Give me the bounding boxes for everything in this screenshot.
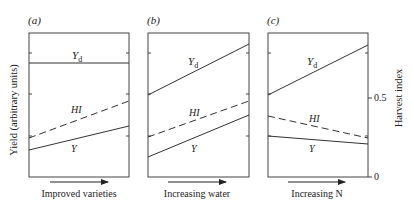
panel-a: (a) Yd HI Y Improved varieties: [28, 14, 129, 199]
y2-axis-label: Harvest index: [393, 68, 404, 127]
y-axis-label: Yield (arbitrary units): [8, 64, 20, 156]
panel-c-label: (c): [267, 14, 280, 27]
panel-b-label: (b): [147, 14, 160, 27]
hi-label-a: HI: [70, 104, 82, 115]
y-line-c: [268, 136, 368, 144]
yd-line-c: [268, 45, 368, 95]
hi-label-b: HI: [188, 107, 200, 118]
ticks-b: [148, 53, 249, 136]
ticks-a: [29, 53, 129, 136]
figure: Yield (arbitrary units) (a) Yd HI Y Impr…: [0, 0, 413, 217]
panel-a-label: (a): [28, 14, 41, 27]
yd-line-b: [148, 44, 249, 95]
y-label-c: Y: [309, 143, 316, 154]
ticks-c: [268, 53, 372, 177]
x-axis-label-b: Increasing water: [164, 188, 231, 199]
panel-c: (c) Yd HI Y Increasing N 0.5 0 Harvest i…: [267, 14, 404, 199]
yd-label-b: Yd: [188, 55, 198, 70]
x-axis-label-a: Improved varieties: [41, 188, 116, 199]
y-line-a: [29, 126, 129, 150]
yd-label-a: Yd: [72, 49, 82, 64]
x-axis-label-c: Increasing N: [291, 188, 342, 199]
y2-tick-half: 0.5: [374, 92, 387, 103]
y-line-b: [148, 115, 249, 157]
hi-label-c: HI: [308, 113, 320, 124]
panel-b: (b) Yd HI Y Increasing water: [147, 14, 249, 199]
y2-tick-zero: 0: [374, 171, 379, 182]
yd-label-c: Yd: [307, 55, 317, 70]
y-label-a: Y: [71, 143, 78, 154]
y-label-b: Y: [191, 143, 198, 154]
